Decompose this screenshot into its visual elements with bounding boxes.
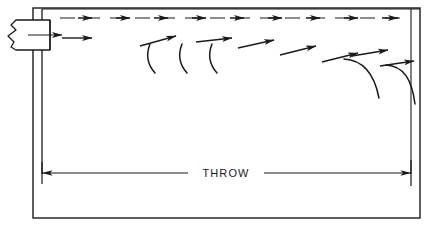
throw-diagram: THROW <box>0 0 432 235</box>
throw-dimension: THROW <box>42 160 411 186</box>
room-outline <box>33 8 420 218</box>
throw-label: THROW <box>202 167 249 179</box>
diagram-canvas: THROW <box>0 0 432 235</box>
induction-curl <box>148 44 217 73</box>
secondary-air-stream <box>62 36 414 66</box>
terminal-dropoff-curve <box>344 59 415 104</box>
